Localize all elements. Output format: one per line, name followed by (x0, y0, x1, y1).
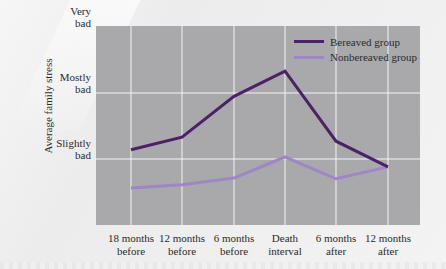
y-tick-label: Verybad (31, 5, 91, 29)
legend-swatch-nonbereaved (294, 56, 324, 59)
y-tick-label: Slightlybad (31, 137, 91, 161)
legend-swatch-bereaved (294, 40, 324, 43)
legend-label-nonbereaved: Nonbereaved group (330, 51, 417, 63)
x-tick-label: 12 monthsafter (353, 232, 423, 258)
cut-off-caption (0, 262, 446, 269)
y-tick-label: Mostlybad (31, 71, 91, 95)
y-axis-title: Average family stress (42, 46, 54, 166)
legend-label-bereaved: Bereaved group (330, 36, 400, 48)
